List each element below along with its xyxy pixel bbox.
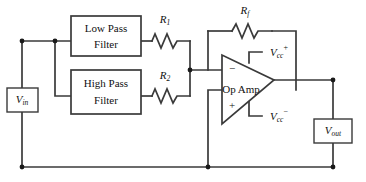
- high-pass-filter-line1: High Pass: [84, 77, 128, 89]
- resistor-r2-label: R2: [159, 69, 171, 83]
- node-output: [331, 78, 336, 83]
- op-amp-inverting-sign: −: [229, 62, 235, 74]
- wire-branch-highpass: [55, 41, 71, 96]
- resistor-rf-symbol: [232, 24, 272, 38]
- node-ground-middle: [206, 165, 211, 170]
- node-ground-left: [20, 165, 25, 170]
- op-amp-noninverting-sign: +: [229, 99, 235, 111]
- vcc-neg-subscript: cc: [277, 114, 284, 123]
- node-summing-junction: [188, 68, 193, 73]
- vcc-negative-label: Vcc−: [270, 106, 288, 123]
- node-filter-split: [53, 39, 58, 44]
- vout-subscript: out: [332, 128, 343, 137]
- low-pass-filter-line1: Low Pass: [85, 22, 127, 34]
- node-ground-right: [331, 165, 336, 170]
- vcc-positive-label: Vcc+: [270, 42, 288, 59]
- op-amp-label: Op Amp: [222, 83, 260, 95]
- resistor-r1-symbol: [152, 34, 190, 48]
- r2-subscript: 2: [166, 73, 170, 82]
- node-vin-top: [20, 39, 25, 44]
- resistor-r2-symbol: [152, 89, 190, 103]
- rf-subscript: f: [247, 8, 250, 17]
- resistor-rf-label: Rf: [240, 4, 251, 18]
- vin-subscript: in: [22, 97, 28, 106]
- wire-feedback-right-drop: [272, 31, 296, 90]
- wire-vcc-positive-stub: [249, 52, 262, 63]
- r1-subscript: 1: [166, 17, 170, 26]
- resistor-r1-label: R1: [159, 13, 170, 27]
- circuit-canvas: Low Pass Filter High Pass Filter Op Amp …: [0, 0, 366, 182]
- low-pass-filter-line2: Filter: [94, 38, 118, 50]
- circuit-diagram: Low Pass Filter High Pass Filter Op Amp …: [0, 0, 366, 182]
- vcc-pos-superscript: +: [283, 42, 288, 51]
- wire-noninverting-to-ground: [208, 90, 222, 167]
- vcc-neg-superscript: −: [283, 106, 288, 115]
- high-pass-filter-line2: Filter: [94, 94, 118, 106]
- vcc-pos-subscript: cc: [277, 50, 284, 59]
